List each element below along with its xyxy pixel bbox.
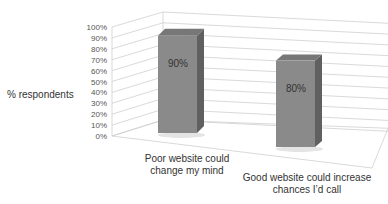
y-tick-label: 40% bbox=[91, 88, 107, 97]
y-tick-label: 60% bbox=[91, 67, 107, 76]
y-tick-label: 100% bbox=[87, 23, 107, 32]
category-label: change my mind bbox=[150, 165, 223, 176]
gridlines bbox=[112, 12, 388, 168]
bar-chart-3d: 0%10%20%30%40%50%60%70%80%90%100% % resp… bbox=[0, 0, 388, 204]
category-label: chances I’d call bbox=[273, 184, 341, 195]
y-tick-label: 70% bbox=[91, 56, 107, 65]
y-tick-label: 30% bbox=[91, 99, 107, 108]
x-axis-categories: Poor website couldchange my mindGood web… bbox=[145, 153, 372, 195]
y-tick-label: 10% bbox=[91, 121, 107, 130]
y-tick-label: 50% bbox=[91, 78, 107, 87]
y-axis-ticks: 0%10%20%30%40%50%60%70%80%90%100% bbox=[87, 23, 107, 141]
bars: 90%80% bbox=[158, 29, 323, 152]
y-tick-label: 20% bbox=[91, 110, 107, 119]
data-label: 80% bbox=[286, 83, 306, 94]
y-tick-label: 90% bbox=[91, 34, 107, 43]
data-label: 90% bbox=[168, 58, 188, 69]
y-tick-label: 80% bbox=[91, 45, 107, 54]
y-axis-label: % respondents bbox=[7, 89, 74, 100]
bar: 80% bbox=[276, 55, 323, 152]
y-tick-label: 0% bbox=[95, 132, 107, 141]
category-label: Good website could increase bbox=[243, 172, 372, 183]
bar: 90% bbox=[158, 29, 205, 138]
category-label: Poor website could bbox=[145, 153, 230, 164]
